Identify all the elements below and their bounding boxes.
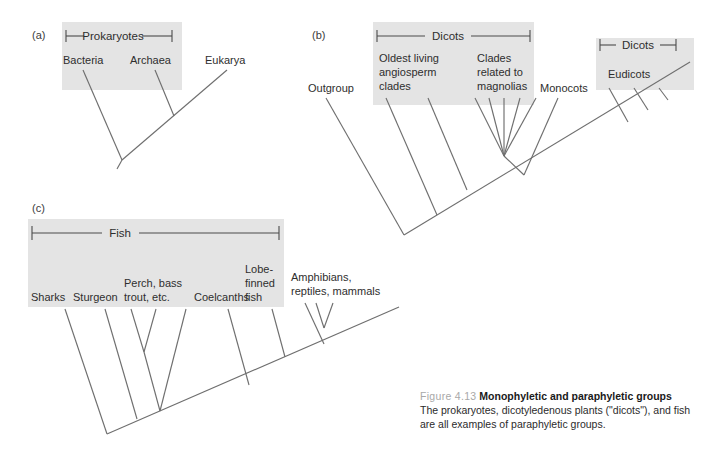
tip-label-sharks: Sharks [31, 291, 66, 303]
tip-label-outgroup: Outgroup [308, 82, 354, 94]
svg-text:finned: finned [245, 277, 275, 289]
branch-coelcanths [228, 309, 249, 385]
tip-label-archaea: Archaea [130, 54, 172, 66]
branch-oldest-angiosperm-2 [428, 98, 467, 190]
svg-text:magnolias: magnolias [477, 80, 528, 92]
figure-page: (a) Prokaryotes Bacteria Archaea Eukarya [0, 0, 701, 461]
branch-magnolias-5 [504, 98, 536, 156]
branch-magnolias-4 [504, 98, 520, 156]
svg-text:reptiles, mammals: reptiles, mammals [291, 285, 381, 297]
branch-sturgeon [105, 309, 137, 419]
branch-perch-stem-inner [144, 352, 160, 411]
branch-perch-1 [131, 309, 144, 352]
branch-lobe-finned-fish [272, 309, 285, 357]
branch-oldest-angiosperm-1 [386, 98, 437, 215]
branch-eudicots-1 [609, 88, 628, 122]
caption-body: The prokaryotes, dicotyledenous plants (… [420, 404, 692, 431]
svg-text:Perch, bass: Perch, bass [124, 277, 183, 289]
panel-c: (c) Fish Sharks Sturgeon Perch, bass tro… [28, 202, 399, 434]
branch-perch-3 [160, 309, 186, 411]
root-stem-panel-a [117, 160, 122, 169]
tip-label-coelcanths: Coelcanths [194, 291, 250, 303]
panel-a-bracket-label: Prokaryotes [82, 30, 144, 42]
branch-amphibians-reptiles-1 [305, 303, 324, 344]
branch-outgroup [326, 98, 404, 235]
panel-c-bracket-label: Fish [109, 227, 131, 239]
panel-c-letter: (c) [32, 202, 45, 214]
svg-text:fish: fish [245, 291, 262, 303]
branch-amphibians-reptiles-3 [316, 303, 324, 328]
panel-a-letter: (a) [32, 29, 45, 41]
panel-a: (a) Prokaryotes Bacteria Archaea Eukarya [32, 22, 246, 169]
caption-title: Monophyletic and paraphyletic groups [479, 390, 672, 402]
svg-text:related to: related to [477, 66, 523, 78]
branch-magnolias-1 [475, 98, 504, 156]
svg-text:Oldest living: Oldest living [379, 52, 439, 64]
caption-heading: Figure 4.13 Monophyletic and paraphyleti… [420, 389, 692, 403]
tip-label-sturgeon: Sturgeon [73, 291, 118, 303]
svg-text:trout, etc.: trout, etc. [124, 291, 170, 303]
tip-label-amphibians-reptiles-mammals: Amphibians, reptiles, mammals [291, 271, 381, 297]
panel-b: (b) Dicots Dicots Outgroup Oldest livi [308, 22, 694, 235]
svg-text:Amphibians,: Amphibians, [291, 271, 352, 283]
panel-b-bracket-label-narrow: Dicots [622, 39, 654, 51]
caption-figure-number: Figure 4.13 [420, 390, 476, 402]
tip-label-eudicots: Eudicots [608, 68, 651, 80]
branch-magnolias-2 [489, 98, 504, 156]
panel-b-bracket-label-wide: Dicots [432, 30, 464, 42]
branch-perch-2 [144, 309, 156, 352]
svg-text:Lobe-: Lobe- [245, 263, 273, 275]
tip-label-bacteria: Bacteria [63, 54, 104, 66]
tip-label-eukarya: Eukarya [205, 54, 246, 66]
figure-caption: Figure 4.13 Monophyletic and paraphyleti… [420, 389, 692, 431]
svg-text:clades: clades [379, 80, 411, 92]
branch-amphibians-reptiles-2 [324, 303, 333, 328]
svg-text:angiosperm: angiosperm [379, 66, 436, 78]
branch-sharks [65, 309, 107, 434]
svg-text:Clades: Clades [477, 52, 512, 64]
panel-b-letter: (b) [312, 29, 325, 41]
tip-label-monocots: Monocots [540, 82, 588, 94]
